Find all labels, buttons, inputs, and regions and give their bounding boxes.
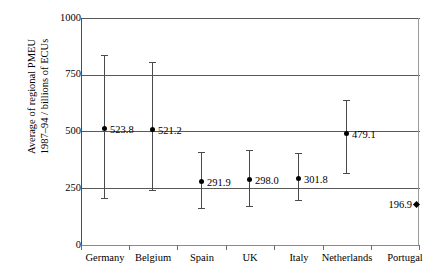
y-tick-500: 500 <box>22 126 81 137</box>
data-point-germany[interactable] <box>102 126 107 131</box>
error-bar-belgium <box>152 62 153 190</box>
y-tick-1000: 1000 <box>22 13 81 24</box>
error-cap-high-spain <box>198 152 205 153</box>
error-cap-high-italy <box>295 153 302 154</box>
x-tick-5 <box>323 245 324 250</box>
x-tick-4 <box>274 245 275 250</box>
chart-canvas: Average of regional PMEU 1987–94 / billi… <box>0 0 433 279</box>
x-tick-3 <box>226 245 227 250</box>
data-point-belgium[interactable] <box>150 127 155 132</box>
y-tick-0: 0 <box>22 240 81 251</box>
error-cap-high-germany <box>101 55 108 56</box>
error-cap-low-germany <box>101 198 108 199</box>
y-tick-label-500: 500 <box>29 126 81 137</box>
data-point-spain[interactable] <box>199 179 204 184</box>
error-cap-low-spain <box>198 208 205 209</box>
y-axis-title: Average of regional PMEU 1987–94 / billi… <box>26 0 51 207</box>
error-bar-netherlands <box>346 100 347 173</box>
data-label-germany: 523.8 <box>110 124 134 135</box>
y-tick-label-1000: 1000 <box>29 13 81 24</box>
error-cap-low-italy <box>295 200 302 201</box>
y-axis-title-line1: Average of regional PMEU <box>26 0 39 207</box>
error-cap-high-belgium <box>149 62 156 63</box>
data-point-netherlands[interactable] <box>344 131 349 136</box>
y-tick-label-250: 250 <box>29 183 81 194</box>
error-cap-low-belgium <box>149 190 156 191</box>
data-label-italy: 301.8 <box>304 174 328 185</box>
x-tick-6 <box>371 245 372 250</box>
x-tick-7 <box>419 245 420 250</box>
data-label-portugal: 196.9 <box>364 199 412 210</box>
x-tick-0 <box>81 245 82 250</box>
data-label-netherlands: 479.1 <box>352 129 376 140</box>
data-point-italy[interactable] <box>296 176 301 181</box>
x-tick-2 <box>177 245 178 250</box>
data-label-spain: 291.9 <box>207 177 231 188</box>
error-cap-high-uk <box>246 150 253 151</box>
y-axis-title-line2: 1987–94 / billions of ECUs <box>38 0 51 207</box>
data-label-belgium: 521.2 <box>158 125 182 136</box>
y-tick-750: 750 <box>22 69 81 80</box>
data-point-uk[interactable] <box>247 177 252 182</box>
y-tick-label-0: 0 <box>29 240 81 251</box>
error-cap-high-netherlands <box>343 100 350 101</box>
error-cap-low-netherlands <box>343 173 350 174</box>
x-tick-1 <box>129 245 130 250</box>
y-tick-250: 250 <box>22 183 81 194</box>
x-axis-line <box>81 245 420 246</box>
error-cap-low-uk <box>246 206 253 207</box>
data-label-uk: 298.0 <box>255 175 279 186</box>
x-label-portugal: Portugal <box>377 252 433 264</box>
x-label-netherlands: Netherlands <box>312 252 382 264</box>
y-tick-label-750: 750 <box>29 69 81 80</box>
